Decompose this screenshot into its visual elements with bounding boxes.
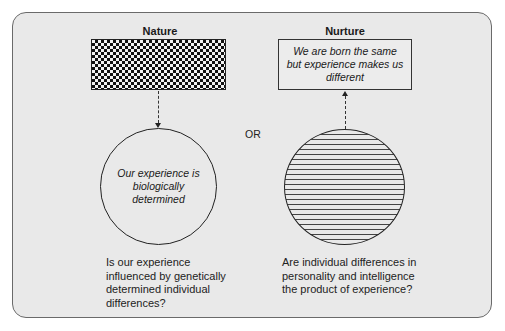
- nature-circle-text: Our experience is biologically determine…: [113, 167, 205, 206]
- nature-question: Is our experience influenced by genetica…: [106, 256, 226, 310]
- nurture-striped-circle: [284, 129, 405, 245]
- nurture-heading: Nurture: [278, 25, 412, 37]
- nurture-box-text: We are born the same but experience make…: [286, 45, 404, 84]
- or-label: OR: [245, 128, 261, 140]
- nurture-question: Are individual differences in personalit…: [282, 256, 417, 297]
- nature-heading: Nature: [92, 25, 228, 37]
- nature-checkerboard-box: [91, 39, 226, 90]
- nature-circle: Our experience is biologically determine…: [100, 128, 217, 245]
- nurture-dashed-arrow-line: [345, 96, 346, 129]
- diagram-frame: [12, 12, 492, 318]
- nurture-box: We are born the same but experience make…: [278, 39, 412, 90]
- nature-dashed-arrow-line: [158, 91, 159, 123]
